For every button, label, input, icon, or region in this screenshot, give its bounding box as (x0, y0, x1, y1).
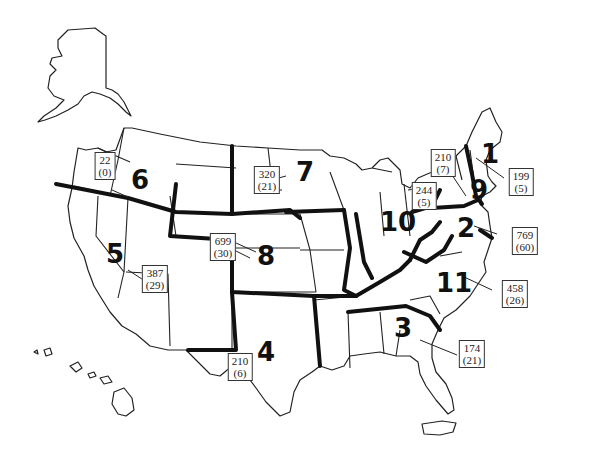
count-value: 320 (258, 168, 276, 180)
count-value: 387 (146, 267, 164, 279)
count-label-region-6: 22 (0) (95, 152, 116, 180)
count-label-region-1: 199 (5) (509, 168, 534, 196)
region-number-2: 2 (457, 215, 475, 241)
count-value: 199 (513, 170, 530, 182)
region-number-3: 3 (394, 315, 412, 341)
count-value: 174 (463, 342, 481, 354)
count-label-region-9: 210 (7) (431, 149, 456, 177)
count-sub: (29) (146, 279, 164, 291)
region-number-1: 1 (481, 141, 499, 167)
region-number-8: 8 (257, 243, 275, 269)
hawaii-shape (112, 388, 134, 416)
count-label-region-2: 769 (60) (512, 227, 538, 255)
count-value: 244 (416, 184, 433, 196)
count-label-region-5: 387 (29) (142, 265, 168, 293)
count-value: 210 (435, 151, 452, 163)
count-label-region-11: 458 (26) (502, 280, 528, 308)
count-sub: (5) (513, 182, 530, 194)
count-label-region-3: 174 (21) (459, 340, 485, 368)
region-number-10: 10 (380, 209, 416, 235)
count-sub: (7) (435, 163, 452, 175)
alaska-shape (38, 28, 131, 122)
region-number-7: 7 (296, 159, 314, 185)
count-sub: (30) (214, 247, 232, 259)
count-value: 699 (214, 235, 232, 247)
region-number-9: 9 (470, 177, 488, 203)
count-value: 769 (516, 229, 534, 241)
count-value: 458 (506, 282, 524, 294)
region-number-5: 5 (106, 241, 124, 267)
region-number-11: 11 (436, 270, 472, 296)
count-sub: (21) (463, 354, 481, 366)
count-value: 210 (232, 355, 249, 367)
count-label-region-10: 244 (5) (412, 182, 437, 210)
count-sub: (0) (99, 166, 112, 178)
count-label-region-8: 699 (30) (210, 233, 236, 261)
count-sub: (5) (416, 196, 433, 208)
us-regions-map (0, 0, 591, 464)
count-value: 22 (99, 154, 112, 166)
count-sub: (6) (232, 367, 249, 379)
region-number-4: 4 (257, 339, 275, 365)
puerto-rico-shape (422, 421, 456, 435)
count-sub: (26) (506, 294, 524, 306)
count-label-region-7: 320 (21) (254, 166, 280, 194)
count-label-region-4: 210 (6) (228, 353, 253, 381)
region-number-6: 6 (131, 167, 149, 193)
count-sub: (21) (258, 180, 276, 192)
count-sub: (60) (516, 241, 534, 253)
